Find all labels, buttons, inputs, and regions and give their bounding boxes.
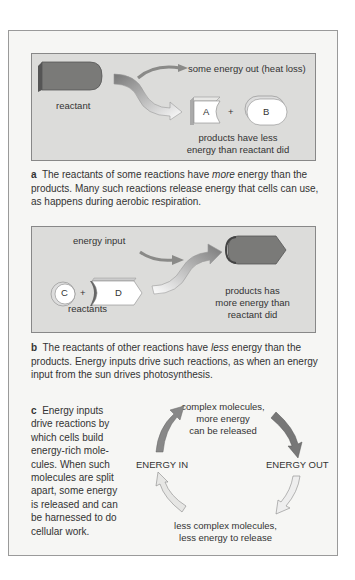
products-less-energy-label: products have less energy than reactant …: [178, 132, 298, 156]
energy-input-label: energy input: [73, 235, 125, 247]
product-b-label: B: [263, 106, 269, 118]
plus-sign-a: +: [228, 106, 234, 118]
reactant-c-label: C: [61, 287, 68, 299]
products-more-energy-label: products has more energy than reactant d…: [200, 285, 305, 321]
energy-out-label: some energy out (heat loss): [188, 63, 306, 75]
caption-a: a The reactants of some reactions have m…: [31, 168, 321, 209]
caption-c: c Energy inputs drive reactions by which…: [31, 404, 126, 538]
reactant-d-label: D: [115, 287, 122, 299]
reactants-label: reactants: [68, 303, 107, 315]
reactant-label: reactant: [56, 100, 90, 112]
product-shape: [226, 236, 288, 266]
reaction-arrow-down: [114, 72, 184, 120]
cycle-arrows: [150, 400, 310, 525]
reactant-shape: [38, 62, 106, 94]
caption-b: b The reactants of other reactions have …: [31, 341, 321, 382]
product-a-label: A: [203, 106, 209, 118]
plus-sign-b: +: [80, 287, 86, 299]
